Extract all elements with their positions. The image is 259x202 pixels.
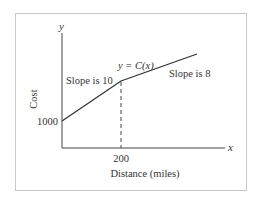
y-axis-label: Cost	[28, 89, 39, 108]
chart-svg: y x 1000 200 Distance (miles) Cost y = C…	[0, 0, 259, 202]
x-axis-label: Distance (miles)	[110, 168, 180, 180]
y-tick-1000: 1000	[37, 116, 58, 127]
y-axis-symbol: y	[58, 20, 64, 32]
slope-10-label: Slope is 10	[66, 75, 113, 86]
slope-8-label: Slope is 8	[169, 68, 210, 79]
x-axis-symbol: x	[227, 141, 233, 153]
x-tick-200: 200	[113, 153, 129, 164]
function-label: y = C(x)	[117, 60, 154, 72]
